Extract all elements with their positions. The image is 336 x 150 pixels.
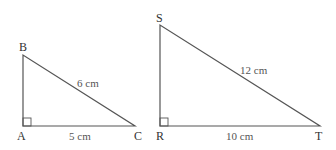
vertex-label-a: A [17, 129, 26, 143]
vertex-label-b: B [19, 40, 27, 54]
right-angle-marker-r [160, 118, 168, 126]
side-label-rt: 10 cm [226, 130, 254, 142]
side-label-ac: 5 cm [69, 130, 91, 142]
side-label-bc: 6 cm [77, 77, 99, 89]
triangle-abc-outline [23, 55, 135, 126]
right-angle-marker-a [23, 118, 31, 126]
vertex-label-s: S [156, 11, 163, 25]
vertex-label-c: C [134, 129, 142, 143]
vertex-label-t: T [315, 129, 323, 143]
vertex-label-r: R [156, 129, 164, 143]
triangle-abc: B A C 6 cm 5 cm [17, 40, 142, 143]
diagram: B A C 6 cm 5 cm S R T 12 cm 10 cm [0, 0, 336, 150]
triangle-rst: S R T 12 cm 10 cm [156, 11, 323, 143]
side-label-st: 12 cm [240, 64, 268, 76]
